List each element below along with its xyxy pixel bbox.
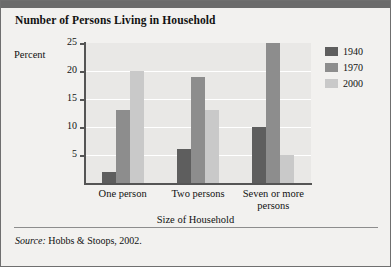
- source-prefix: Source:: [15, 235, 46, 246]
- legend-item-2000: 2000: [325, 78, 363, 89]
- legend-item-1940: 1940: [325, 46, 363, 57]
- y-axis-line: [84, 42, 86, 184]
- x-tick-label: Seven or more persons: [228, 188, 318, 212]
- divider-rule: [14, 227, 378, 228]
- y-tick-label: 5: [37, 148, 77, 159]
- source-text: Hobbs & Stoops, 2002.: [48, 235, 142, 246]
- y-tick-mark: [80, 155, 84, 157]
- bar-2000-one-person: [130, 71, 144, 183]
- x-axis-line: [84, 183, 312, 185]
- bar-group: [102, 43, 144, 183]
- bar-1970-seven-or-more-persons: [266, 43, 280, 183]
- bar-2000-two-persons: [205, 110, 219, 183]
- y-tick-mark: [80, 43, 84, 45]
- bar-2000-seven-or-more-persons: [280, 155, 294, 183]
- legend-label: 1970: [343, 62, 363, 73]
- figure-container: Number of Persons Living in Household Pe…: [0, 0, 391, 267]
- bar-1940-seven-or-more-persons: [252, 127, 266, 183]
- chart-title: Number of Persons Living in Household: [15, 14, 216, 26]
- bar-1970-one-person: [116, 110, 130, 183]
- y-axis-title: Percent: [14, 49, 46, 60]
- y-tick-label: 15: [37, 92, 77, 103]
- bar-1970-two-persons: [191, 77, 205, 183]
- legend-swatch: [325, 63, 338, 72]
- legend-label: 1940: [343, 46, 363, 57]
- y-tick-label: 25: [37, 36, 77, 47]
- legend: 194019702000: [325, 46, 363, 94]
- x-axis-title: Size of Household: [1, 214, 390, 225]
- legend-label: 2000: [343, 78, 363, 89]
- y-tick-mark: [80, 127, 84, 129]
- source-note: Source: Hobbs & Stoops, 2002.: [15, 235, 142, 246]
- bar-1940-two-persons: [177, 149, 191, 183]
- bar-group: [177, 43, 219, 183]
- y-tick-label: 20: [37, 64, 77, 75]
- y-tick-label: 10: [37, 120, 77, 131]
- legend-swatch: [325, 79, 338, 88]
- bar-1940-one-person: [102, 172, 116, 183]
- bar-group: [252, 43, 294, 183]
- y-tick-mark: [80, 71, 84, 73]
- top-band: [1, 1, 390, 8]
- legend-item-1970: 1970: [325, 62, 363, 73]
- legend-swatch: [325, 47, 338, 56]
- y-tick-mark: [80, 99, 84, 101]
